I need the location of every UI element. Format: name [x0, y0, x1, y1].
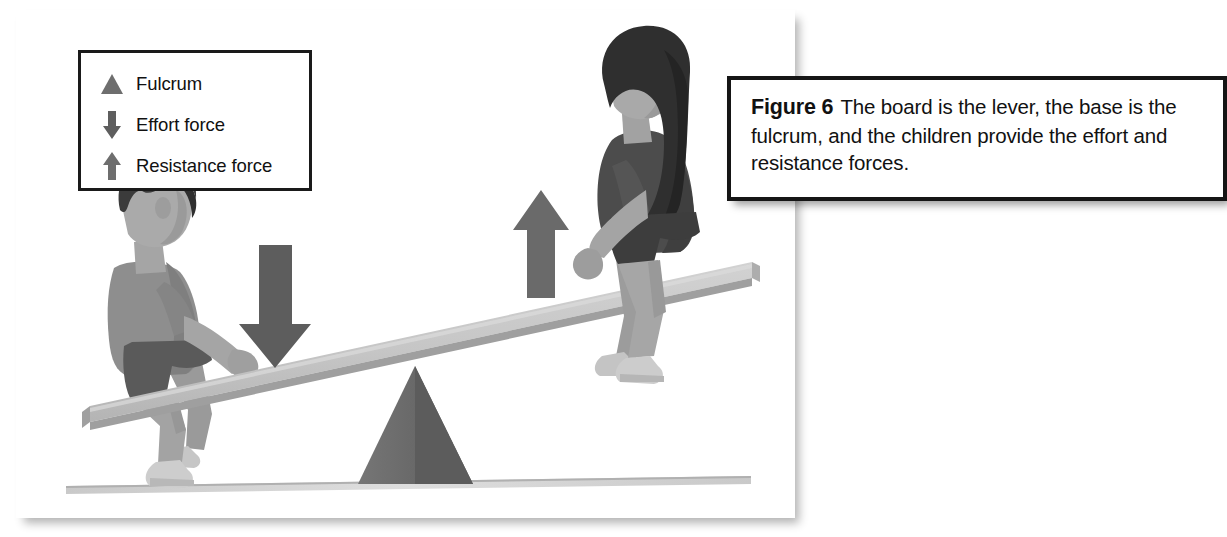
- legend-box: Fulcrum Effort force Resistance force: [78, 50, 312, 191]
- legend-label-effort-force: Effort force: [136, 114, 225, 136]
- fulcrum-triangle: [358, 366, 473, 484]
- legend-item-resistance-force: Resistance force: [99, 146, 309, 185]
- figure-panel: Fulcrum Effort force Resistance force: [16, 10, 795, 518]
- figure-caption-text: Figure 6The board is the lever, the base…: [751, 93, 1209, 176]
- resistance-force-arrow: [513, 190, 569, 298]
- legend-label-fulcrum: Fulcrum: [136, 73, 202, 95]
- legend-item-effort-force: Effort force: [99, 105, 309, 144]
- figure-caption-label: Figure 6: [751, 95, 833, 119]
- figure-caption-box: Figure 6The board is the lever, the base…: [727, 76, 1227, 201]
- triangle-up-icon: [99, 69, 125, 99]
- child-boy-figure: [108, 158, 259, 488]
- arrow-down-icon: [99, 110, 125, 140]
- arrow-up-icon: [99, 151, 125, 181]
- child-girl-figure: [573, 26, 700, 384]
- legend-label-resistance-force: Resistance force: [136, 155, 272, 177]
- effort-force-arrow: [239, 245, 311, 368]
- legend-item-fulcrum: Fulcrum: [99, 64, 309, 103]
